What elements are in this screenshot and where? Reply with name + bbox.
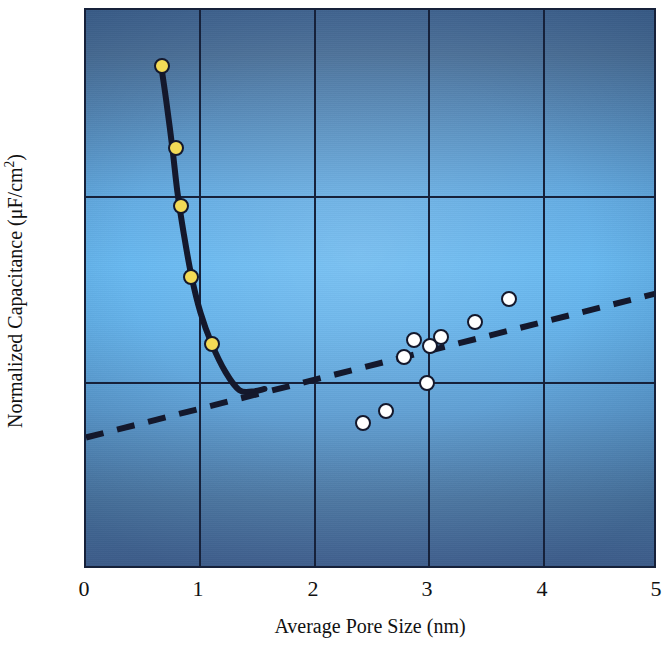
y-axis-label: Normalized Capacitance (μF/cm2) (0, 11, 30, 571)
x-tick-label: 2 (293, 578, 333, 600)
x-axis-label: Average Pore Size (nm) (84, 614, 656, 638)
y-axis-label-tail: ) (4, 154, 26, 161)
data-point (433, 329, 449, 345)
data-point (204, 336, 220, 352)
dashed-trend-line (86, 293, 656, 437)
y-axis-label-exponent: 2 (2, 161, 17, 168)
trend-curves (86, 10, 656, 568)
data-point (154, 58, 170, 74)
x-tick-label: 4 (522, 578, 562, 600)
y-axis-label-main: Normalized Capacitance (μF/cm (4, 167, 26, 428)
data-point (173, 198, 189, 214)
data-point (467, 314, 483, 330)
x-tick-label: 5 (636, 578, 666, 600)
plot-area (84, 8, 656, 568)
x-tick-label: 0 (64, 578, 104, 600)
data-point (355, 415, 371, 431)
x-tick-label: 3 (407, 578, 447, 600)
x-tick-label: 1 (178, 578, 218, 600)
data-point (378, 403, 394, 419)
